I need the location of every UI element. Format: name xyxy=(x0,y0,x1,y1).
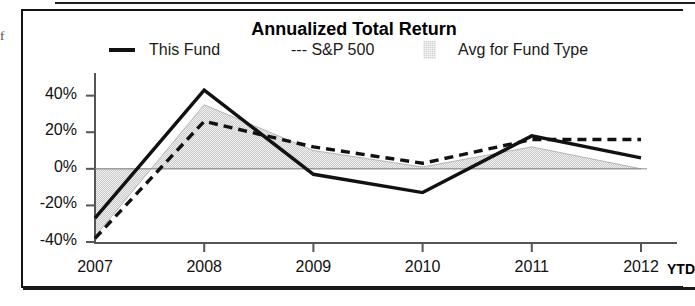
bottom-divider-rule xyxy=(23,287,695,290)
ytd-label: YTD xyxy=(667,261,695,277)
chart-figure: f Annualized Total Return This Fund --- … xyxy=(0,0,695,306)
y-tick-label: 40% xyxy=(15,85,77,103)
y-tick-label: -40% xyxy=(15,231,77,249)
x-tick-label: 2010 xyxy=(388,258,458,276)
x-tick-label: 2009 xyxy=(278,258,348,276)
plot-svg xyxy=(23,11,685,290)
x-tick-label: 2012 xyxy=(606,258,676,276)
top-divider-rule xyxy=(55,2,695,4)
y-tick-label: -20% xyxy=(15,194,77,212)
chart-border-box: Annualized Total Return This Fund --- S&… xyxy=(21,9,683,288)
y-tick-label: 20% xyxy=(15,121,77,139)
x-tick-label: 2008 xyxy=(169,258,239,276)
y-tick-label: 0% xyxy=(15,158,77,176)
plot-area: 40%20%0%-20%-40% 20072008200920102011201… xyxy=(23,11,685,290)
x-tick-label: 2007 xyxy=(60,258,130,276)
x-tick-label: 2011 xyxy=(497,258,567,276)
edge-fragment-glyph: f xyxy=(0,28,9,44)
